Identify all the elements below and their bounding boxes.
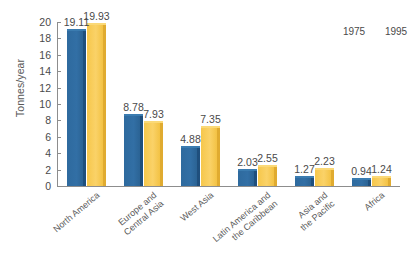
y-tick-label: 16 xyxy=(29,49,51,61)
bar-1995[interactable] xyxy=(144,121,163,186)
bar-1975[interactable] xyxy=(67,29,86,186)
y-tick-label: 8 xyxy=(29,114,51,126)
bar-1995[interactable] xyxy=(87,23,106,186)
bar-value-label: 1.27 xyxy=(294,163,314,175)
bar-1995[interactable] xyxy=(372,176,391,186)
bar-value-label: 2.55 xyxy=(257,152,277,164)
bar-1995[interactable] xyxy=(258,165,277,186)
y-tick-label: 14 xyxy=(29,65,51,77)
bar-1975[interactable] xyxy=(295,176,314,186)
x-axis-line xyxy=(57,186,400,187)
legend-item-1995[interactable]: 1995 xyxy=(379,26,412,39)
y-axis-title: Tonnes/year xyxy=(14,38,26,138)
x-tick-label: Asia and the Pacific xyxy=(231,190,336,279)
y-tick-label: 10 xyxy=(29,98,51,110)
y-tick-label: 12 xyxy=(29,82,51,94)
y-tick-label: 20 xyxy=(29,16,51,28)
y-tick-mark xyxy=(57,186,61,187)
bar-value-label: 2.03 xyxy=(237,156,257,168)
y-tick-label: 2 xyxy=(29,164,51,176)
bar-value-label: 8.78 xyxy=(123,101,143,113)
bar-1975[interactable] xyxy=(238,169,257,186)
bar-1975[interactable] xyxy=(352,178,371,186)
bar-group xyxy=(343,22,400,186)
bar-value-label: 7.35 xyxy=(200,113,220,125)
y-tick-label: 18 xyxy=(29,32,51,44)
legend-label-1995: 1995 xyxy=(379,26,412,37)
legend-label-1975: 1975 xyxy=(337,26,371,37)
bar-1975[interactable] xyxy=(124,114,143,186)
bar-group xyxy=(172,22,229,186)
x-tick-label: Europe and Central Asia xyxy=(60,190,165,279)
y-tick-label: 0 xyxy=(29,180,51,192)
bar-1995[interactable] xyxy=(315,168,334,186)
y-tick-label: 4 xyxy=(29,147,51,159)
y-tick-label: 6 xyxy=(29,131,51,143)
bar-value-label: 0.94 xyxy=(351,165,371,177)
bar-value-label: 19.93 xyxy=(83,10,109,22)
bar-value-label: 1.24 xyxy=(371,163,391,175)
legend-item-1975[interactable]: 1975 xyxy=(337,26,371,39)
bar-value-label: 7.93 xyxy=(143,108,163,120)
bar-chart: Tonnes/year 20181614121086420 19.1119.93… xyxy=(0,0,412,279)
bar-1975[interactable] xyxy=(181,146,200,186)
bar-group xyxy=(58,22,115,186)
plot-area: 19.1119.938.787.934.887.352.032.551.272.… xyxy=(58,22,400,186)
bar-value-label: 4.88 xyxy=(180,133,200,145)
bar-value-label: 2.23 xyxy=(314,155,334,167)
bar-1995[interactable] xyxy=(201,126,220,186)
